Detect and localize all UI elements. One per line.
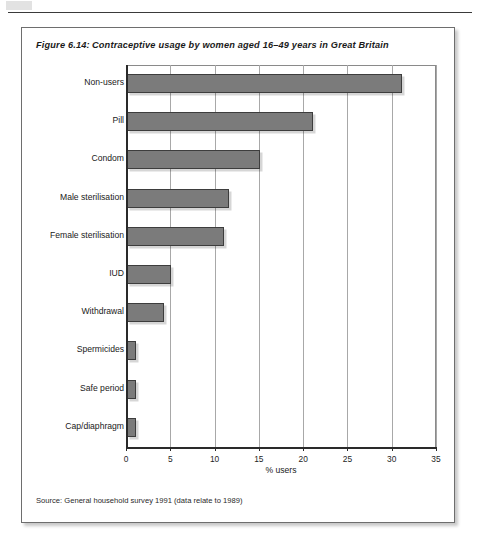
- bar-row: Male sterilisation: [126, 180, 436, 218]
- bar-row: Female sterilisation: [126, 218, 436, 256]
- bar-safe-period: [127, 380, 136, 399]
- bar-condom: [127, 150, 260, 169]
- x-tick-label-20: 20: [298, 454, 307, 464]
- x-tick-label-0: 0: [124, 454, 129, 464]
- x-tick-label-25: 25: [343, 454, 352, 464]
- bar-withdrawal: [127, 303, 164, 322]
- category-label-safe-period: Safe period: [0, 383, 124, 393]
- category-label-male-sterilisation: Male sterilisation: [0, 192, 124, 202]
- x-tick-label-15: 15: [254, 454, 263, 464]
- bar-row: Withdrawal: [126, 294, 436, 332]
- bar-female-sterilisation: [127, 227, 224, 246]
- figure-frame: Figure 6.14:Contraceptive usage by women…: [21, 27, 455, 523]
- page-number-artifact: [6, 1, 32, 10]
- bar-row: Safe period: [126, 371, 436, 409]
- bar-row: Cap/diaphragm: [126, 409, 436, 447]
- tickmark-10: [215, 447, 216, 451]
- bar-pill: [127, 112, 313, 131]
- y-axis-line: [126, 65, 128, 447]
- bar-non-users: [127, 74, 402, 93]
- tickmark-0: [126, 447, 127, 451]
- category-label-female-sterilisation: Female sterilisation: [0, 230, 124, 240]
- x-tick-label-35: 35: [431, 454, 440, 464]
- tickmark-20: [303, 447, 304, 451]
- figure-title-text: Contraceptive usage by women aged 16–49 …: [92, 40, 389, 50]
- x-tick-label-10: 10: [210, 454, 219, 464]
- gridline-35: [436, 65, 437, 447]
- category-label-condom: Condom: [0, 153, 124, 163]
- bar-row: IUD: [126, 256, 436, 294]
- bar-row: Condom: [126, 141, 436, 179]
- tickmark-35: [436, 447, 437, 451]
- tickmark-30: [392, 447, 393, 451]
- category-label-pill: Pill: [0, 115, 124, 125]
- category-label-non-users: Non-users: [0, 77, 124, 87]
- bar-spermicides: [127, 341, 136, 360]
- category-label-iud: IUD: [0, 268, 124, 278]
- bar-iud: [127, 265, 171, 284]
- tickmark-15: [259, 447, 260, 451]
- figure-title: Figure 6.14:Contraceptive usage by women…: [36, 40, 446, 50]
- tickmark-5: [170, 447, 171, 451]
- bar-row: Pill: [126, 103, 436, 141]
- tickmark-25: [347, 447, 348, 451]
- x-axis-line: [126, 447, 437, 449]
- category-label-spermicides: Spermicides: [0, 344, 124, 354]
- bar-male-sterilisation: [127, 189, 229, 208]
- source-note: Source: General household survey 1991 (d…: [36, 496, 242, 505]
- bar-row: Spermicides: [126, 332, 436, 370]
- category-label-cap-diaphragm: Cap/diaphragm: [0, 421, 124, 431]
- bar-cap-diaphragm: [127, 418, 136, 437]
- figure-number: Figure 6.14:: [36, 40, 92, 50]
- page-header-rule: [8, 12, 472, 13]
- category-label-withdrawal: Withdrawal: [0, 306, 124, 316]
- x-axis-title: % users: [126, 465, 436, 475]
- bar-row: Non-users: [126, 65, 436, 103]
- x-tick-label-30: 30: [387, 454, 396, 464]
- chart-plot-area: Non-usersPillCondomMale sterilisationFem…: [126, 65, 436, 447]
- x-tick-label-5: 5: [168, 454, 173, 464]
